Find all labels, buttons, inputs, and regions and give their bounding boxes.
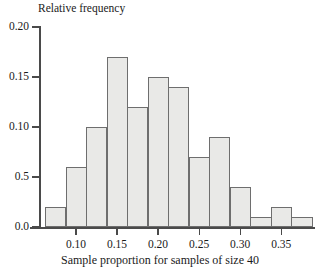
y-axis-tick-label: 0.20 [9, 21, 29, 32]
x-axis-tick-label: 0.30 [220, 238, 260, 250]
y-axis-tick [32, 126, 39, 127]
y-axis-title: Relative frequency [38, 2, 125, 15]
x-axis-tick [240, 228, 241, 235]
x-axis-title: Sample proportion for samples of size 40 [0, 253, 320, 268]
histogram-bar [250, 217, 271, 227]
histogram-bar [45, 207, 66, 227]
histogram-bar [148, 77, 169, 227]
plot-area [39, 27, 312, 227]
histogram-bar [189, 157, 210, 227]
y-axis-tick-label: 0.10 [9, 121, 29, 132]
y-axis-tick [32, 176, 39, 177]
x-axis-tick [75, 228, 76, 235]
x-axis-tick [199, 228, 200, 235]
x-axis-tick-label: 0.25 [179, 238, 219, 250]
histogram-bar [86, 127, 107, 227]
x-axis-tick-label: 0.15 [97, 238, 137, 250]
x-axis-tick [157, 228, 158, 235]
histogram-bar [291, 217, 312, 227]
y-axis-tick-label: 0.15 [9, 71, 29, 82]
x-axis-tick-label: 0.20 [138, 238, 178, 250]
x-axis-tick [281, 228, 282, 235]
histogram-bar [107, 57, 128, 227]
y-axis-tick-label: 0.5 [15, 171, 29, 182]
x-axis-tick [116, 228, 117, 235]
y-axis-tick [32, 26, 39, 27]
histogram-bar [66, 167, 87, 227]
y-axis-tick [32, 226, 39, 227]
x-axis-tick-label: 0.35 [261, 238, 301, 250]
histogram-bar [168, 87, 189, 227]
histogram-bar [209, 137, 230, 227]
histogram-figure: Relative frequency 0.200.150.100.50.0 0.… [0, 0, 320, 275]
histogram-bar [230, 187, 251, 227]
y-axis-tick-label: 0.0 [15, 221, 29, 232]
y-axis-tick [32, 76, 39, 77]
histogram-bar [127, 107, 148, 227]
x-axis-line [30, 227, 315, 229]
histogram-bar [271, 207, 292, 227]
x-axis-tick-label: 0.10 [56, 238, 96, 250]
